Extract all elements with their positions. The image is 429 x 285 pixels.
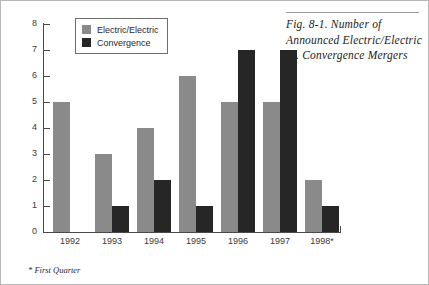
- x-axis-label-1998: 1998*: [300, 236, 344, 246]
- x-axis-label-1995: 1995: [174, 236, 218, 246]
- legend-label-electric-electric: Electric/Electric: [97, 25, 159, 35]
- y-axis-tick-label: 5: [21, 96, 37, 106]
- bar-1995-electric-electric: [179, 76, 196, 232]
- y-axis-tick-mark: [44, 24, 50, 25]
- bar-1996-electric-electric: [221, 102, 238, 232]
- y-axis-tick-label: 6: [21, 70, 37, 80]
- y-axis-tick-label: 7: [21, 44, 37, 54]
- y-axis-tick-mark: [44, 232, 50, 233]
- y-axis-tick-mark: [44, 154, 50, 155]
- chart-legend: Electric/Electric Convergence: [75, 18, 168, 54]
- figure-footnote: * First Quarter: [28, 265, 80, 275]
- y-axis-tick-mark: [44, 50, 50, 51]
- x-axis-line: [43, 232, 341, 233]
- bar-1993-convergence: [112, 206, 129, 232]
- x-axis-label-1996: 1996: [216, 236, 260, 246]
- y-axis-tick-mark: [44, 206, 50, 207]
- legend-item-electric-electric: Electric/Electric: [82, 23, 159, 36]
- legend-swatch-electric-electric: [82, 25, 91, 34]
- bar-1992-electric-electric: [53, 102, 70, 232]
- x-axis-label-1993: 1993: [90, 236, 134, 246]
- y-axis-tick-mark: [44, 76, 50, 77]
- legend-item-convergence: Convergence: [82, 36, 159, 49]
- bar-1994-electric-electric: [137, 128, 154, 232]
- bar-1996-convergence: [238, 50, 255, 232]
- bar-1995-convergence: [196, 206, 213, 232]
- legend-swatch-convergence: [82, 38, 91, 47]
- y-axis-tick-mark: [44, 180, 50, 181]
- x-axis-label-1992: 1992: [48, 236, 92, 246]
- y-axis-tick-label: 2: [21, 174, 37, 184]
- y-axis-tick-label: 4: [21, 122, 37, 132]
- bar-1997-convergence: [280, 50, 297, 232]
- y-axis-tick-mark: [44, 102, 50, 103]
- bar-1998-convergence: [322, 206, 339, 232]
- x-axis-end-tick: [340, 226, 341, 233]
- y-axis-tick-mark: [44, 128, 50, 129]
- figure-page: Fig. 8-1. Number of Announced Electric/E…: [0, 0, 429, 285]
- y-axis-tick-label: 3: [21, 148, 37, 158]
- legend-label-convergence: Convergence: [97, 38, 151, 48]
- y-axis-tick-label: 8: [21, 18, 37, 28]
- bar-chart-plot: 012345678 1992199319941995199619971998*: [1, 1, 429, 285]
- bar-1997-electric-electric: [263, 102, 280, 232]
- bar-1998-electric-electric: [305, 180, 322, 232]
- x-axis-label-1994: 1994: [132, 236, 176, 246]
- y-axis-tick-label: 1: [21, 200, 37, 210]
- y-axis-tick-label: 0: [21, 226, 37, 236]
- x-axis-label-1997: 1997: [258, 236, 302, 246]
- bar-1993-electric-electric: [95, 154, 112, 232]
- bar-1994-convergence: [154, 180, 171, 232]
